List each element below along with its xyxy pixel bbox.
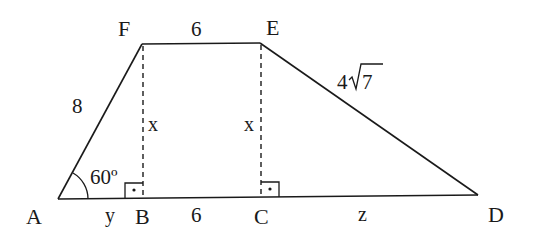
edge-fe <box>142 43 260 44</box>
label-ed-coefficient: 4 <box>337 70 348 94</box>
vertex-label-b: B <box>135 204 150 229</box>
vertex-label-e: E <box>266 15 279 40</box>
label-ed-radicand: 7 <box>362 70 373 94</box>
label-cd: z <box>358 203 367 225</box>
label-fe: 6 <box>191 17 202 41</box>
vertex-label-c: C <box>254 204 269 229</box>
trapezoid-diagram: A B C D E F 8 6 x x y 6 z 60º 4 7 <box>0 0 544 245</box>
edge-ad <box>58 195 478 199</box>
vertex-label-d: D <box>488 202 504 227</box>
right-angle-mark-b <box>125 183 143 198</box>
label-angle-a: 60º <box>90 165 118 189</box>
label-ed: 4 7 <box>337 64 383 94</box>
label-fb: x <box>148 113 158 135</box>
label-ec: x <box>244 113 254 135</box>
right-angle-mark-c <box>261 182 279 197</box>
vertex-label-f: F <box>118 16 130 41</box>
label-af: 8 <box>72 94 83 118</box>
edge-ed <box>260 43 478 195</box>
label-ab: y <box>105 204 115 227</box>
vertex-label-a: A <box>26 204 42 229</box>
angle-a-arc <box>73 173 88 199</box>
label-bc: 6 <box>191 203 202 227</box>
